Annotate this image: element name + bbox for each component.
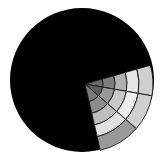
- wedge-cell-s1-r5: [137, 65, 153, 96]
- polar-sector-diagram: [0, 0, 165, 161]
- wedge-cell-s1-r4: [125, 69, 139, 93]
- wedge-cell-s1-r3: [114, 72, 127, 91]
